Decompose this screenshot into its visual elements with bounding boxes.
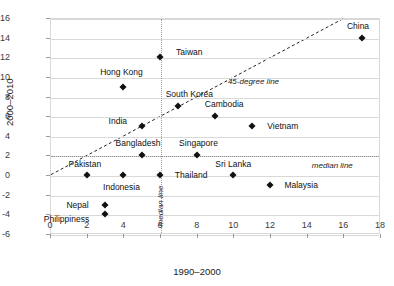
y-tick-label--2: -2 xyxy=(0,190,10,200)
y-tick-mark-14 xyxy=(46,38,50,39)
data-point-label: Nepal xyxy=(66,200,88,210)
gridline-y--4 xyxy=(51,215,379,216)
y-tick-mark-16 xyxy=(46,18,50,19)
gridline-y-14 xyxy=(51,39,379,40)
gridline-y-0 xyxy=(51,176,379,177)
x-tick-mark-10 xyxy=(233,234,234,238)
data-point-label: India xyxy=(109,116,127,126)
data-point-label: Sri Lanka xyxy=(215,159,251,169)
y-tick-label-0: 0 xyxy=(0,170,10,180)
x-tick-mark-2 xyxy=(87,234,88,238)
annotation-median-line: median line xyxy=(312,160,353,169)
x-tick-mark-4 xyxy=(123,234,124,238)
reference-line-layer xyxy=(51,19,379,233)
y-tick-mark-10 xyxy=(46,77,50,78)
y-tick-mark-2 xyxy=(46,155,50,156)
y-axis-title: 2000–2010 xyxy=(4,78,15,126)
x-tick-mark-14 xyxy=(307,234,308,238)
data-point-label: Cambodia xyxy=(205,99,244,109)
y-tick-mark-4 xyxy=(46,136,50,137)
x-tick-label-10: 10 xyxy=(228,220,238,230)
data-point-label: Bangladesh xyxy=(116,138,161,148)
data-point-label: Singapore xyxy=(179,138,218,148)
gridline-y--6 xyxy=(51,235,379,236)
y-tick-mark-0 xyxy=(46,175,50,176)
data-point-label: Thailand xyxy=(175,170,208,180)
x-tick-label-8: 8 xyxy=(194,220,199,230)
x-tick-mark-16 xyxy=(343,234,344,238)
x-tick-mark-0 xyxy=(50,234,51,238)
data-point-label: Pakistan xyxy=(69,159,102,169)
annotation-median-line-vertical: median line xyxy=(156,185,165,226)
y-tick-label-16: 16 xyxy=(0,13,10,23)
x-tick-label-18: 18 xyxy=(375,220,385,230)
x-axis-title: 1990–2000 xyxy=(0,266,394,277)
gridline-y-8 xyxy=(51,98,379,99)
annotation-45-degree-line: 45-degree line xyxy=(228,76,279,85)
data-point-label: Philippiness xyxy=(44,214,89,224)
y-tick-mark-8 xyxy=(46,97,50,98)
data-point-label: Malaysia xyxy=(284,180,318,190)
data-point-label: South Korea xyxy=(166,89,213,99)
x-tick-label-12: 12 xyxy=(265,220,275,230)
scatter-chart: -6-4-20246810121416 024681012141618 1990… xyxy=(0,0,394,286)
y-tick-label-2: 2 xyxy=(0,150,10,160)
gridline-y-12 xyxy=(51,58,379,59)
y-tick-label-4: 4 xyxy=(0,131,10,141)
plot-area xyxy=(50,18,380,234)
y-tick-mark--2 xyxy=(46,195,50,196)
gridline-y--2 xyxy=(51,196,379,197)
x-tick-mark-18 xyxy=(380,234,381,238)
x-tick-label-14: 14 xyxy=(302,220,312,230)
data-point-label: Indonesia xyxy=(103,182,140,192)
gridline-y-16 xyxy=(51,19,379,20)
y-tick-label--4: -4 xyxy=(0,209,10,219)
y-tick-label-12: 12 xyxy=(0,52,10,62)
y-tick-mark-6 xyxy=(46,116,50,117)
data-point-label: Vietnam xyxy=(267,121,298,131)
median-line-horizontal xyxy=(51,156,379,157)
x-tick-label-16: 16 xyxy=(338,220,348,230)
y-tick-label--6: -6 xyxy=(0,229,10,239)
data-point-label: Taiwan xyxy=(176,47,202,57)
x-tick-mark-8 xyxy=(197,234,198,238)
data-point-label: China xyxy=(347,21,369,31)
x-tick-label-4: 4 xyxy=(121,220,126,230)
x-tick-mark-12 xyxy=(270,234,271,238)
data-point-label: Hong Kong xyxy=(100,67,143,77)
gridline-y-10 xyxy=(51,78,379,79)
x-tick-mark-6 xyxy=(160,234,161,238)
y-tick-label-14: 14 xyxy=(0,33,10,43)
y-tick-mark-12 xyxy=(46,57,50,58)
